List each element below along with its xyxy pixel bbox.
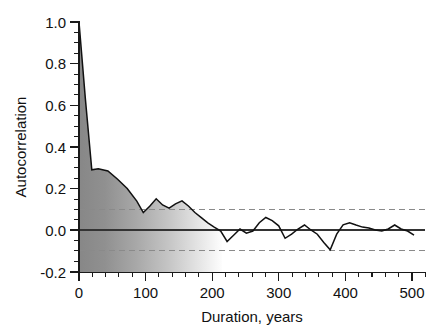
x-tick-label: 300: [266, 284, 291, 301]
x-tick-label: 500: [399, 284, 424, 301]
shaded-area: [79, 22, 222, 272]
autocorrelation-chart: 1.0 0.8 0.6 0.4 0.2 0.0 -0.2 Autocorrela…: [0, 0, 433, 334]
y-tick-label: 1.0: [45, 14, 66, 31]
y-tick-label: -0.2: [40, 264, 66, 281]
y-tick-label: 0.4: [45, 139, 66, 156]
x-tick-label: 100: [133, 284, 158, 301]
y-tick-label: 0.6: [45, 97, 66, 114]
y-tick-label: 0.8: [45, 55, 66, 72]
y-tick-label: 0.0: [45, 222, 66, 239]
x-tick-label: 400: [333, 284, 358, 301]
y-axis-title: Autocorrelation: [12, 97, 29, 198]
chart-figure: 1.0 0.8 0.6 0.4 0.2 0.0 -0.2 Autocorrela…: [0, 0, 433, 334]
x-axis: 0 100 200 300 400 500 Duration, years: [75, 272, 425, 325]
y-tick-label: 0.2: [45, 180, 66, 197]
shaded-area-group: [79, 22, 222, 272]
x-tick-label: 200: [200, 284, 225, 301]
y-axis: 1.0 0.8 0.6 0.4 0.2 0.0 -0.2 Autocorrela…: [12, 14, 79, 281]
x-axis-title: Duration, years: [201, 308, 303, 325]
x-tick-label: 0: [75, 284, 83, 301]
